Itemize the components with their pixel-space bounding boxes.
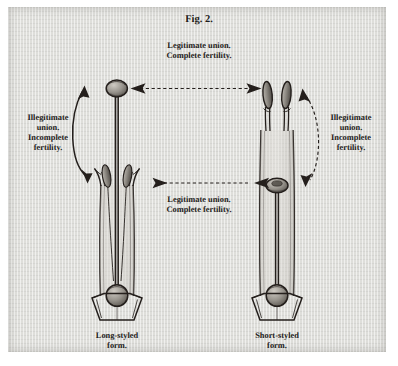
arrow-legitimate-middle (153, 178, 270, 189)
arrow-illegitimate-left (73, 86, 93, 184)
label-left-line3: Incomplete (28, 133, 68, 142)
caption-top-line2: Complete fertility. (166, 51, 231, 60)
caption-long-styled-line1: Long-styled (96, 331, 139, 340)
arrowhead-bottom (82, 170, 93, 184)
anther-right (122, 164, 134, 188)
caption-middle-line2: Complete fertility. (166, 205, 231, 214)
label-right-line2: union. (340, 123, 363, 132)
arrow-legitimate-top (131, 83, 262, 94)
caption-short-styled-line1: Short-styled (255, 331, 299, 340)
short-styled-tube (260, 130, 294, 296)
figure-title: Fig. 2. (185, 14, 213, 25)
long-styled-flower (92, 80, 142, 320)
label-right-line1: Illegitimate (331, 113, 372, 122)
arrowhead-left (153, 178, 168, 189)
caption-long-styled-line2: form. (107, 341, 127, 350)
arrowhead-right (247, 83, 262, 94)
anther-left (101, 164, 113, 188)
short-styled-ovary (266, 285, 288, 307)
arrowhead-bottom (301, 173, 313, 187)
long-styled-style (115, 96, 118, 287)
short-styled-flower (252, 81, 302, 320)
short-styled-anthers (262, 81, 292, 131)
label-right-line4: fertility. (337, 143, 366, 152)
anther-tall-right (281, 81, 293, 109)
arrowhead-top (78, 86, 90, 100)
arrowhead-left (131, 83, 146, 94)
short-styled-stigma (266, 178, 288, 192)
caption-short-styled-line2: form. (267, 341, 287, 350)
caption-top-line1: Legitimate union. (167, 41, 230, 50)
arrow-illegitimate-right (299, 89, 319, 188)
arrowhead-top (299, 89, 311, 103)
label-left-line4: fertility. (34, 143, 63, 152)
figure-diagram: Fig. 2. Legitimate union. Complete ferti… (0, 0, 398, 366)
label-left-line2: union. (37, 123, 60, 132)
label-left-line1: Illegitimate (28, 113, 69, 122)
anther-tall-left (262, 81, 274, 109)
long-styled-stigma (106, 80, 127, 97)
caption-middle-line1: Legitimate union. (167, 195, 230, 204)
long-styled-ovary (106, 285, 128, 307)
label-right-line3: Incomplete (331, 133, 371, 142)
